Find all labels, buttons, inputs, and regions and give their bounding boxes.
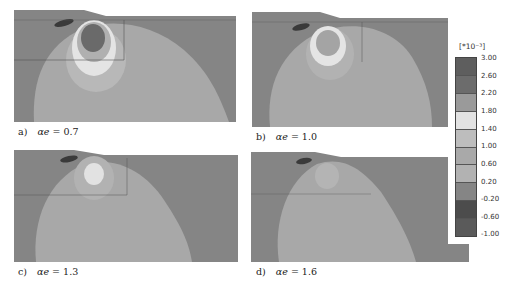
colorbar-segment <box>456 76 476 94</box>
colorbar-tick: -0.60 <box>481 213 499 221</box>
colorbar-tick: 1.80 <box>481 107 497 115</box>
colorbar-segment <box>456 148 476 166</box>
colorbar-tick: -1.00 <box>481 230 499 238</box>
colorbar-tick: 3.00 <box>481 54 497 62</box>
colorbar-tick: 0.20 <box>481 178 497 186</box>
colorbar-segment <box>456 58 476 76</box>
colorbar-tick: 0.60 <box>481 160 497 168</box>
colorbar-segment <box>456 165 476 183</box>
colorbar-unit: [*10⁻³] <box>459 42 485 51</box>
contour-plot-a <box>14 10 236 122</box>
caption-b: b)αe = 1.0 <box>256 131 317 142</box>
colorbar-segment <box>456 94 476 112</box>
colorbar-segment <box>456 201 476 219</box>
colorbar-segment <box>456 130 476 148</box>
colorbar-tick: 1.00 <box>481 142 497 150</box>
caption-a: a)αe = 0.7 <box>18 126 79 137</box>
contour-panel-b <box>252 12 448 127</box>
colorbar-segment <box>456 183 476 201</box>
contour-panel-a <box>14 10 236 122</box>
colorbar-tick: -0.20 <box>481 195 499 203</box>
colorbar-tick: 2.20 <box>481 89 497 97</box>
colorbar-segment <box>456 112 476 130</box>
contour-plot-b <box>252 12 448 127</box>
contour-panel-d <box>251 152 469 262</box>
colorbar <box>455 57 477 237</box>
colorbar-tick: 1.40 <box>481 125 497 133</box>
colorbar-tick: 2.60 <box>481 72 497 80</box>
contour-plot-d <box>251 152 469 262</box>
caption-c: c)αe = 1.3 <box>18 266 78 277</box>
colorbar-segment <box>456 219 476 236</box>
contour-panel-c <box>14 150 238 262</box>
caption-d: d)αe = 1.6 <box>256 266 317 277</box>
contour-plot-c <box>14 150 238 262</box>
